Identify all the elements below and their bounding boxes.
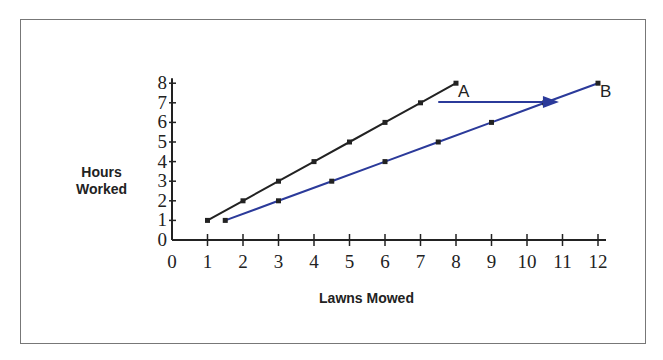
y-tick-label: 8 (158, 72, 168, 93)
series-label-A: A (458, 82, 470, 101)
x-tick-label: 7 (416, 251, 426, 272)
data-point (241, 198, 246, 203)
x-tick-label: 2 (238, 251, 248, 272)
y-tick-label: 3 (158, 170, 168, 191)
data-point (436, 140, 441, 145)
x-tick-label: 10 (518, 251, 537, 272)
series-label-B: B (600, 82, 611, 101)
data-point (489, 120, 494, 125)
y-tick-label: 0 (158, 229, 168, 250)
x-tick-label: 3 (274, 251, 284, 272)
x-tick-label: 1 (203, 251, 213, 272)
x-tick-label: 4 (309, 251, 319, 272)
x-tick-label: 5 (345, 251, 355, 272)
x-tick-label: 11 (553, 251, 571, 272)
data-point (329, 179, 334, 184)
x-tick-label: 12 (589, 251, 608, 272)
y-tick-label: 7 (158, 92, 168, 113)
y-tick-label: 5 (158, 131, 168, 152)
data-point (312, 159, 317, 164)
data-point (276, 179, 281, 184)
data-point (223, 218, 228, 223)
data-point (347, 140, 352, 145)
y-tick-label: 4 (158, 151, 168, 172)
x-tick-label: 8 (451, 251, 461, 272)
y-tick-label: 1 (158, 209, 168, 230)
data-point (276, 198, 281, 203)
y-tick-label: 6 (158, 111, 168, 132)
data-point (418, 100, 423, 105)
data-point (383, 159, 388, 164)
line-chart: 0123456789101112012345678AB (0, 0, 663, 360)
data-point (383, 120, 388, 125)
series-B-line (225, 83, 598, 220)
data-point (205, 218, 210, 223)
x-tick-label: 6 (380, 251, 390, 272)
x-tick-label: 9 (487, 251, 497, 272)
x-tick-label: 0 (167, 251, 177, 272)
y-tick-label: 2 (158, 190, 168, 211)
